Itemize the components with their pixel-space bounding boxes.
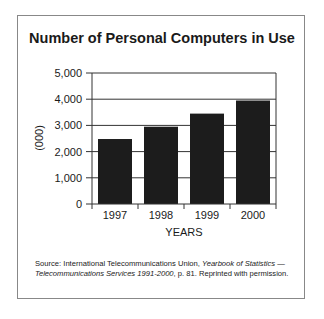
y-tick-label: 5,000: [54, 67, 82, 79]
y-axis-label: (000): [33, 125, 45, 151]
y-tick-label: 1,000: [54, 172, 82, 184]
bar-1998: [144, 127, 178, 204]
y-tick-label: 0: [76, 198, 82, 210]
source-note: Source: International Telecommunications…: [35, 259, 290, 279]
x-tick-label: 1997: [103, 209, 127, 221]
bars: [98, 101, 270, 204]
y-tick-label: 4,000: [54, 93, 82, 105]
bar-2000: [236, 101, 270, 204]
y-tick-label: 2,000: [54, 146, 82, 158]
x-tick-label: 2000: [241, 209, 265, 221]
bar-1999: [190, 114, 224, 204]
y-tick-label: 3,000: [54, 119, 82, 131]
bar-1997: [98, 139, 132, 204]
x-tick-label: 1999: [195, 209, 219, 221]
x-axis-label: YEARS: [165, 226, 202, 238]
x-tick-label: 1998: [149, 209, 173, 221]
